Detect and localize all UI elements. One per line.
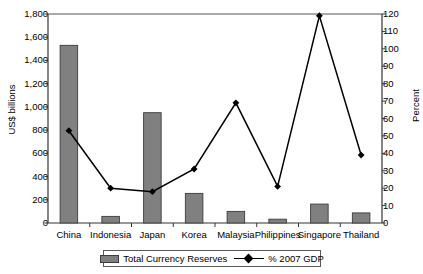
x-axis-tick-label: Thailand bbox=[334, 230, 388, 240]
legend-item-line: % 2007 GDP bbox=[234, 253, 323, 264]
x-axis-category-labels: ChinaIndonesiaJapanKoreaMalaysiaPhilippi… bbox=[0, 0, 423, 274]
chart-container: US$ billions Percent 02004006008001,0001… bbox=[0, 0, 423, 274]
legend-bar-swatch-icon bbox=[100, 255, 119, 263]
legend-label-line: % 2007 GDP bbox=[268, 253, 323, 264]
legend-item-bar: Total Currency Reserves bbox=[100, 253, 227, 264]
legend-line-swatch-icon bbox=[234, 254, 264, 263]
chart-legend: Total Currency Reserves % 2007 GDP bbox=[103, 250, 321, 267]
legend-label-bar: Total Currency Reserves bbox=[123, 253, 227, 264]
